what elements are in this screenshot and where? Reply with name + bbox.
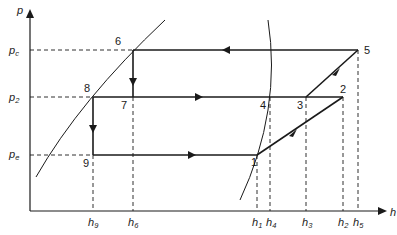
p-h-diagram: p h pc p2 pe h9 h6 h1 h4 h3 h2 h5	[0, 0, 397, 235]
saturated-liquid-curve	[36, 20, 165, 177]
saturated-vapor-curve	[240, 20, 272, 200]
arrow-9-1-icon	[188, 151, 196, 159]
arrow-5-6-icon	[222, 46, 230, 54]
y-axis-label: p	[16, 4, 23, 16]
point-2-label: 2	[340, 83, 346, 95]
point-8-label: 8	[84, 82, 90, 94]
y-tick-p2: p2	[8, 91, 20, 105]
x-tick-h9: h9	[88, 216, 99, 230]
x-axis-arrow-icon	[378, 207, 387, 215]
x-axis-label: h	[390, 206, 396, 218]
point-4-label: 4	[260, 99, 266, 111]
point-7-label: 7	[121, 99, 127, 111]
x-tick-h5: h5	[353, 216, 364, 230]
x-tick-h2: h2	[338, 216, 349, 230]
y-tick-pc: pc	[8, 44, 19, 58]
x-tick-h3: h3	[302, 216, 313, 230]
point-1-label: 1	[251, 156, 257, 168]
arrow-7-4-icon	[195, 93, 203, 101]
point-6-label: 6	[115, 35, 121, 47]
x-tick-h1: h1	[252, 216, 262, 230]
y-tick-pe: pe	[8, 148, 19, 162]
point-9-label: 9	[83, 157, 89, 169]
x-tick-h4: h4	[266, 216, 276, 230]
arrow-6-7-icon	[129, 78, 137, 86]
point-5-label: 5	[364, 44, 370, 56]
projection-lines	[30, 50, 358, 211]
arrow-8-9-icon	[89, 125, 97, 133]
point-3-label: 3	[297, 99, 303, 111]
x-tick-h6: h6	[128, 216, 139, 230]
y-axis-arrow-icon	[26, 9, 34, 18]
